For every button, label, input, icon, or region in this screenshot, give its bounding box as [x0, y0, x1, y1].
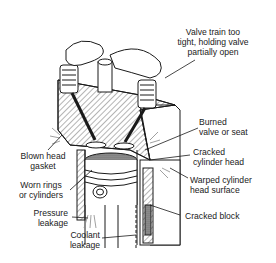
- label-valve-train: Valve train too tight, holding valve par…: [156, 27, 270, 57]
- label-pressure-leakage: Pressure leakage: [20, 208, 68, 228]
- label-cracked-head: Cracked cylinder head: [193, 147, 244, 167]
- label-coolant-leakage: Coolant leakage: [50, 230, 100, 250]
- label-burned-valve: Burned valve or seat: [199, 117, 248, 137]
- label-worn-rings: Worn rings or cylinders: [12, 180, 70, 200]
- label-blown-gasket: Blown head gasket: [14, 151, 72, 171]
- label-warped-head: Warped cylinder head surface: [190, 175, 252, 195]
- label-cracked-block: Cracked block: [185, 211, 239, 221]
